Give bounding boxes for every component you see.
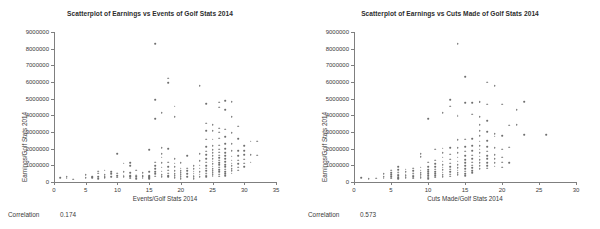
data-point	[501, 167, 503, 169]
data-point	[212, 163, 214, 165]
data-point	[457, 152, 459, 154]
x-tick	[428, 182, 429, 185]
data-point	[148, 149, 150, 151]
data-point	[449, 169, 451, 171]
data-point	[442, 148, 444, 150]
y-tick-label: 8000000	[326, 46, 349, 52]
y-tick	[351, 82, 354, 83]
data-point	[412, 168, 414, 170]
data-point	[224, 166, 226, 168]
plot-area-left: 0100000020000003000000400000050000006000…	[54, 32, 276, 182]
y-tick-label: 3000000	[26, 129, 49, 135]
data-point	[231, 163, 233, 165]
data-point	[472, 150, 474, 152]
y-tick-label: 0	[346, 179, 349, 185]
data-point	[449, 159, 451, 161]
data-point	[212, 161, 214, 163]
y-tick-label: 9000000	[326, 29, 349, 35]
x-tick	[213, 182, 214, 185]
data-point	[449, 154, 451, 156]
data-point	[464, 159, 466, 161]
data-point	[237, 170, 239, 172]
panel-earnings-vs-cuts-made: Scatterplot of Earnings vs Cuts Made of …	[300, 0, 600, 229]
data-point	[479, 101, 481, 103]
data-point	[129, 172, 131, 174]
data-point	[231, 101, 233, 103]
panel-earnings-vs-events: Scatterplot of Earnings vs Events of Gol…	[0, 0, 300, 229]
data-point	[180, 162, 182, 164]
data-point	[412, 170, 414, 172]
data-point	[472, 172, 474, 174]
data-point	[449, 166, 451, 168]
y-tick-label: 0	[46, 179, 49, 185]
y-tick-label: 2000000	[26, 146, 49, 152]
data-point	[155, 173, 157, 175]
data-point	[218, 157, 220, 159]
data-point	[231, 170, 233, 172]
x-tick-label: 30	[241, 187, 248, 193]
y-tick	[51, 165, 54, 166]
data-point	[383, 173, 385, 175]
data-point	[174, 177, 176, 179]
data-point	[161, 171, 163, 173]
data-point	[427, 162, 429, 164]
data-point	[449, 171, 451, 173]
data-point	[136, 170, 138, 172]
data-point	[368, 178, 370, 180]
data-point	[205, 170, 207, 172]
data-point	[212, 176, 214, 178]
data-point	[479, 145, 481, 147]
data-point	[472, 155, 474, 157]
data-point	[449, 176, 451, 178]
data-point	[212, 152, 214, 154]
x-tick	[86, 182, 87, 185]
data-point	[494, 136, 496, 138]
data-point	[479, 152, 481, 154]
data-point	[218, 138, 220, 140]
data-point	[250, 154, 252, 156]
data-point	[494, 85, 496, 87]
y-tick-label: 6000000	[326, 79, 349, 85]
y-tick-label: 9000000	[26, 29, 49, 35]
y-tick-label: 4000000	[326, 112, 349, 118]
data-point	[494, 162, 496, 164]
data-point	[193, 168, 195, 170]
data-point	[218, 171, 220, 173]
data-point	[457, 167, 459, 169]
data-point	[123, 162, 125, 164]
x-tick-label: 0	[352, 187, 355, 193]
data-point	[457, 157, 459, 159]
data-point	[218, 164, 220, 166]
x-tick-label: 10	[114, 187, 121, 193]
data-point	[486, 158, 488, 160]
data-point	[435, 149, 437, 151]
data-point	[205, 154, 207, 156]
data-point	[398, 178, 400, 180]
y-axis-line	[54, 32, 55, 182]
data-point	[479, 135, 481, 137]
data-point	[494, 166, 496, 168]
data-point	[442, 176, 444, 178]
data-point	[427, 118, 429, 120]
y-tick-label: 7000000	[26, 62, 49, 68]
chart-title-left: Scatterplot of Earnings vs Events of Gol…	[0, 10, 300, 17]
data-point	[472, 165, 474, 167]
data-point	[479, 149, 481, 151]
data-point	[472, 114, 474, 116]
correlation-label-left: Correlation	[8, 212, 39, 218]
data-point	[243, 145, 245, 147]
data-point	[472, 145, 474, 147]
x-tick-label: 35	[273, 187, 280, 193]
data-point	[98, 178, 100, 180]
data-point	[516, 124, 518, 126]
data-point	[509, 147, 511, 149]
data-point	[72, 178, 74, 180]
data-point	[186, 170, 188, 172]
data-point	[479, 162, 481, 164]
data-point	[420, 156, 422, 158]
data-point	[464, 151, 466, 153]
data-point	[205, 139, 207, 141]
data-point	[218, 145, 220, 147]
data-point	[161, 112, 163, 114]
data-point	[464, 165, 466, 167]
